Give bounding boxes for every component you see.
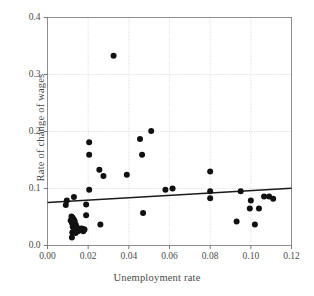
data-point [82, 227, 88, 233]
x-tick-label: 0.12 [272, 251, 312, 261]
y-tick-label: 0.0 [7, 240, 41, 250]
x-tick-label: 0.08 [190, 251, 230, 261]
data-point [97, 221, 103, 227]
data-point [170, 186, 176, 192]
data-point [96, 167, 102, 173]
data-point [140, 210, 146, 216]
data-point [248, 197, 254, 203]
data-point [252, 221, 258, 227]
data-point [83, 212, 89, 218]
y-tick-label: 0.1 [7, 183, 41, 193]
data-point [69, 235, 75, 241]
x-tick-label: 0.04 [109, 251, 149, 261]
y-tick-label: 0.2 [7, 126, 41, 136]
data-point [207, 188, 213, 194]
x-tick-label: 0.00 [28, 251, 68, 261]
data-point [63, 202, 69, 208]
data-point [139, 152, 145, 158]
data-point [111, 53, 117, 59]
data-point [137, 136, 143, 142]
data-point [238, 188, 244, 194]
data-point [124, 172, 130, 178]
data-point [83, 201, 89, 207]
data-point [207, 195, 213, 201]
data-point [86, 187, 92, 193]
data-point [207, 168, 213, 174]
data-point [162, 187, 168, 193]
gridlines-group [48, 18, 292, 246]
x-axis-label: Unemployment rate [0, 272, 314, 283]
tick-marks-group [44, 18, 292, 250]
data-point [256, 205, 262, 211]
x-tick-label: 0.06 [150, 251, 190, 261]
y-tick-label: 0.3 [7, 69, 41, 79]
y-tick-label: 0.4 [7, 12, 41, 22]
data-point [86, 152, 92, 158]
x-tick-label: 0.02 [68, 251, 108, 261]
data-point [100, 173, 106, 179]
data-point [148, 128, 154, 134]
data-point [86, 139, 92, 145]
data-point [71, 194, 77, 200]
data-point [234, 219, 240, 225]
x-tick-label: 0.10 [231, 251, 271, 261]
data-point [270, 196, 276, 202]
scatter-chart-figure: Unemployment rate Rate of change of wage… [0, 0, 314, 296]
data-point [247, 205, 253, 211]
